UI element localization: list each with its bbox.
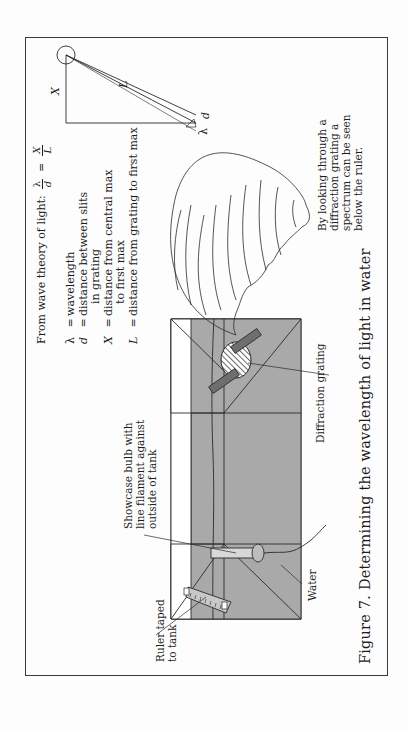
bulb-label: Showcase bulb with line filament against…	[122, 420, 158, 529]
grating-label: Diffraction grating	[314, 344, 326, 443]
definition-row: in grating	[90, 127, 103, 344]
theory-block: From wave theory of light: λ d = X L λ =…	[32, 127, 141, 344]
figure-frame: X L λ d From wave theory of light: λ d =…	[25, 37, 388, 676]
definition-row: d = distance between slits	[78, 127, 91, 344]
definition-row: L = distance from grating to first max	[128, 127, 141, 344]
x-over-l: X L	[32, 145, 53, 156]
definition-row: λ = wavelength	[65, 127, 78, 344]
water-label: Water	[306, 569, 318, 601]
theory-intro-line: From wave theory of light: λ d = X L	[32, 127, 53, 344]
figure-caption: Figure 7. Determining the wavelength of …	[357, 248, 373, 664]
ruler-label: Ruler taped to tank	[154, 599, 178, 662]
diagram-label-x: X	[50, 87, 62, 95]
diagram-label-l: L	[118, 81, 130, 88]
document-page: X L λ d From wave theory of light: λ d =…	[0, 0, 408, 731]
equals-sign: =	[36, 163, 49, 172]
observer-label: By looking through a diffraction grating…	[316, 114, 364, 231]
theory-intro: From wave theory of light:	[36, 195, 49, 344]
diagram-label-d: d	[200, 112, 212, 119]
diagram-label-lambda: λ	[198, 128, 210, 135]
definition-row: X = distance from central max	[103, 127, 116, 344]
lambda-over-d: λ d	[32, 179, 53, 189]
